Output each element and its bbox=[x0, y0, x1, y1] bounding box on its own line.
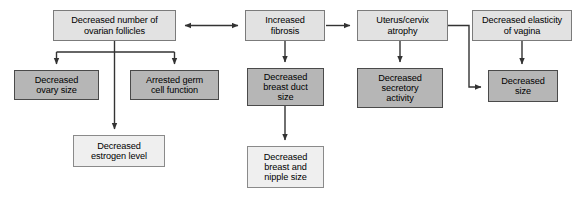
node-ovary-size: Decreased ovary size bbox=[14, 70, 99, 100]
node-estrogen-level: Decreased estrogen level bbox=[73, 135, 165, 167]
node-fibrosis: Increased fibrosis bbox=[245, 10, 325, 41]
node-breast-duct-size: Decreased breast duct size bbox=[247, 68, 324, 106]
node-vaginal-elasticity: Decreased elasticity of vagina bbox=[472, 10, 572, 41]
node-uterus-cervix-atrophy: Uterus/cervix atrophy bbox=[357, 10, 448, 41]
node-secretory-activity: Decreased secretory activity bbox=[357, 68, 443, 108]
node-ovarian-follicles: Decreased number of ovarian follicles bbox=[53, 10, 176, 41]
node-breast-nipple-size: Decreased breast and nipple size bbox=[247, 146, 324, 188]
flowchart-diagram: Decreased number of ovarian follicles De… bbox=[0, 0, 583, 197]
node-germ-cell-function: Arrested germ cell function bbox=[130, 70, 219, 100]
node-decreased-size: Decreased size bbox=[488, 70, 558, 102]
